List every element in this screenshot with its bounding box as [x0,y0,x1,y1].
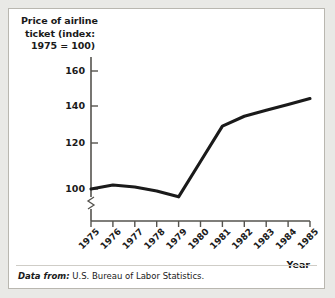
x-tick-label-1978: 1978 [142,226,167,251]
source-divider [16,265,317,266]
source-note: Data from: U.S. Bureau of Labor Statisti… [18,271,204,281]
x-tick-label-1984: 1984 [274,226,299,251]
data-series-line [91,99,310,197]
y-axis-tick-labels: 100 120 140 160 [65,65,85,194]
x-tick-label-1979: 1979 [164,226,189,251]
y-tick-label-140: 140 [65,100,85,111]
y-tick-label-120: 120 [65,137,85,148]
chart-figure: line Price of airline ticket (index: 197… [8,8,325,289]
source-note-body: U.S. Bureau of Labor Statistics. [72,271,204,281]
source-note-lead: Data from: [18,271,70,281]
x-tick-label-1983: 1983 [252,226,277,251]
x-tick-label-1975: 1975 [76,226,101,251]
x-tick-label-1976: 1976 [98,226,123,251]
x-tick-label-1980: 1980 [186,226,211,251]
y-axis-break-icon [88,197,94,209]
line-chart-plot: 100 120 140 160 1975 1976 1977 1978 1979… [9,9,326,290]
y-tick-label-100: 100 [65,183,85,194]
x-axis-tick-labels: 1975 1976 1977 1978 1979 1980 1981 1982 … [76,226,320,251]
y-axis-ticks [91,71,98,189]
x-axis-ticks [91,221,310,227]
x-tick-label-1985: 1985 [295,226,320,251]
y-tick-label-160: 160 [65,65,85,76]
x-tick-label-1981: 1981 [208,226,233,251]
x-tick-label-1977: 1977 [120,226,145,251]
x-tick-label-1982: 1982 [230,226,255,251]
